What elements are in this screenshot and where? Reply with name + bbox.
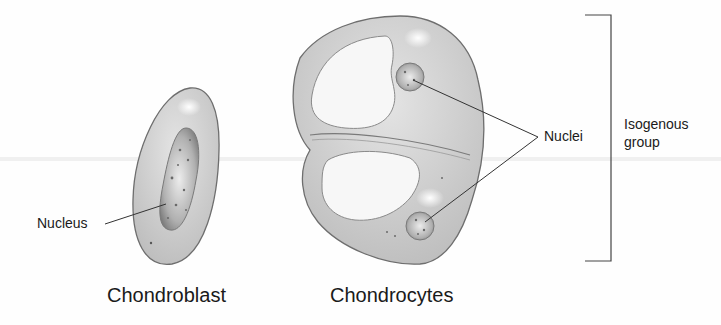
upper-nucleus xyxy=(396,63,424,91)
nuclei-label: Nuclei xyxy=(544,128,583,144)
isogenous-group-bracket xyxy=(585,15,611,261)
chondrocytes-caption: Chondrocytes xyxy=(330,284,453,307)
chondrocytes-group xyxy=(293,16,484,264)
chondroblast-cell xyxy=(133,88,219,264)
lower-nucleus xyxy=(406,212,434,240)
diagram-canvas: Nucleus Nuclei Isogenous group Chondrobl… xyxy=(0,0,721,325)
diagram-graphic xyxy=(0,0,721,325)
nucleus-label: Nucleus xyxy=(37,215,88,231)
isogenous-label-line1: Isogenous xyxy=(624,116,689,132)
isogenous-label-line2: group xyxy=(624,134,660,150)
chondroblast-caption: Chondroblast xyxy=(107,284,226,307)
